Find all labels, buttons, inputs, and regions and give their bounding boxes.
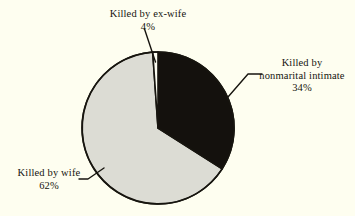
pie-label-nonmarital-text-line1: Killed by <box>250 57 354 70</box>
pie-label-killed-by-ex-wife: Killed by ex-wife 4% <box>96 8 200 33</box>
pie-label-killed-by-nonmarital-intimate: Killed by nonmarital intimate 34% <box>250 57 354 95</box>
pie-label-wife-text: Killed by wife <box>18 167 81 178</box>
pie-label-ex-wife-text: Killed by ex-wife <box>110 8 187 19</box>
pie-label-nonmarital-text-line2: nonmarital intimate <box>250 70 354 83</box>
pie-label-nonmarital-percent: 34% <box>250 82 354 95</box>
pie-label-wife-percent: 62% <box>6 180 92 193</box>
pie-label-ex-wife-percent: 4% <box>96 21 200 34</box>
pie-chart-figure: Killed by ex-wife 4% Killed by nonmarita… <box>0 0 355 216</box>
pie-label-killed-by-wife: Killed by wife 62% <box>6 167 92 192</box>
